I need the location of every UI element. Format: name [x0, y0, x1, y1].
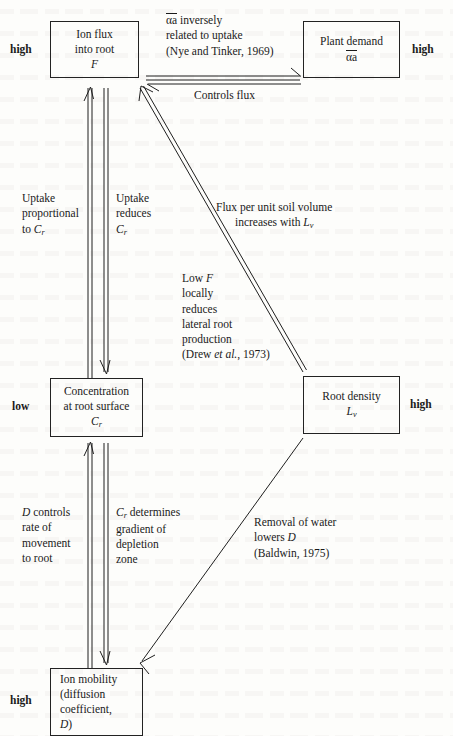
annotation-low-f-line6: (Drew et al., 1973)	[182, 347, 270, 362]
annotation-flux-per-unit-line1: Flux per unit soil volume	[216, 200, 332, 215]
node-concentration-symbol: Cr	[51, 414, 142, 431]
level-label-ion-flux: high	[10, 43, 32, 55]
annotation-alpha-inversely-line1: αa αa inverselyinversely	[166, 13, 274, 28]
annotation-uptake-proportional-line3: to Cr	[22, 222, 79, 239]
annotation-uptake-reduces-line3: Cr	[116, 222, 151, 239]
annotation-d-controls: D controls rate of movement to root	[22, 505, 71, 566]
annotation-low-f-line1: Low F	[182, 271, 270, 286]
diagram-canvas: Ion flux into root F high Plant demand α…	[0, 0, 453, 736]
edge-ionflux-to-concentration	[100, 88, 110, 374]
annotation-low-f-line5: production	[182, 332, 270, 347]
annotation-controls-flux: Controls flux	[194, 88, 255, 103]
annotation-cr-determines-line1: Cr determines	[116, 505, 180, 522]
annotation-removal-of-water-line2: lowers D	[254, 530, 336, 545]
annotation-removal-of-water-line1: Removal of water	[254, 515, 336, 530]
node-plant-demand-symbol: αa	[304, 50, 399, 65]
node-ion-flux-line1: Ion flux	[51, 27, 138, 42]
level-label-ion-mobility: high	[10, 694, 32, 706]
annotation-uptake-reduces-line2: reduces	[116, 206, 151, 221]
node-ion-mobility-line1: Ion mobility	[60, 672, 142, 687]
annotation-low-f-line4: lateral root	[182, 317, 270, 332]
annotation-flux-per-unit-line2: increases with Lv	[216, 215, 332, 232]
annotation-uptake-proportional-line1: Uptake	[22, 191, 79, 206]
annotation-uptake-reduces-line1: Uptake	[116, 191, 151, 206]
annotation-uptake-reduces: Uptake reduces Cr	[116, 191, 151, 238]
annotation-uptake-proportional: Uptake proportional to Cr	[22, 191, 79, 238]
annotation-cr-determines-line4: zone	[116, 552, 180, 567]
annotation-alpha-inversely-line3: (Nye and Tinker, 1969)	[166, 44, 274, 59]
node-plant-demand-line1: Plant demand	[304, 34, 399, 49]
annotation-low-f: Low F locally reduces lateral root produ…	[182, 271, 270, 363]
annotation-d-controls-line2: rate of	[22, 520, 71, 535]
edge-concentration-to-ionflux	[84, 87, 94, 378]
annotation-cr-determines: Cr determines gradient of depletion zone	[116, 505, 180, 568]
annotation-alpha-inversely-line2: related to uptake	[166, 28, 274, 43]
annotation-removal-of-water-line3: (Baldwin, 1975)	[254, 546, 336, 561]
annotation-flux-per-unit: Flux per unit soil volume increases with…	[216, 200, 332, 232]
annotation-low-f-line3: reduces	[182, 302, 270, 317]
level-label-root-density: high	[410, 398, 432, 410]
annotation-removal-of-water: Removal of water lowers D (Baldwin, 1975…	[254, 515, 336, 561]
annotation-low-f-line2: locally	[182, 286, 270, 301]
node-root-density-line1: Root density	[304, 389, 399, 404]
node-ion-flux-line2: into root	[51, 42, 138, 57]
annotation-d-controls-line4: to root	[22, 551, 71, 566]
edge-ionmobility-to-concentration	[84, 442, 94, 668]
node-concentration-line1: Concentration	[51, 384, 142, 399]
level-label-concentration: low	[12, 400, 29, 412]
node-concentration-line2: at root surface	[51, 399, 142, 414]
annotation-alpha-inversely: αa αa inverselyinversely related to upta…	[166, 13, 274, 59]
node-root-density-symbol: Lv	[304, 404, 399, 421]
node-plant-demand[interactable]: Plant demand αa	[303, 21, 400, 78]
diagram-edges	[0, 0, 453, 736]
annotation-cr-determines-line3: depletion	[116, 537, 180, 552]
node-ion-flux[interactable]: Ion flux into root F	[50, 21, 139, 78]
node-ion-mobility-line2: (diffusion	[60, 687, 142, 702]
node-root-density[interactable]: Root density Lv	[303, 376, 400, 434]
node-concentration[interactable]: Concentration at root surface Cr	[50, 378, 143, 437]
annotation-d-controls-line3: movement	[22, 536, 71, 551]
annotation-uptake-proportional-line2: proportional	[22, 206, 79, 221]
node-ion-mobility-line3: coefficient,	[60, 702, 142, 717]
edge-ionflux-to-plantdemand	[146, 68, 301, 80]
node-ion-mobility[interactable]: Ion mobility (diffusion coefficient, D)	[50, 668, 143, 736]
node-ion-flux-symbol: F	[51, 57, 138, 72]
edge-concentration-to-ionmobility	[100, 443, 110, 665]
annotation-cr-determines-line2: gradient of	[116, 522, 180, 537]
level-label-plant-demand: high	[412, 43, 434, 55]
node-ion-mobility-symbol: D)	[60, 717, 142, 732]
annotation-d-controls-line1: D controls	[22, 505, 71, 520]
